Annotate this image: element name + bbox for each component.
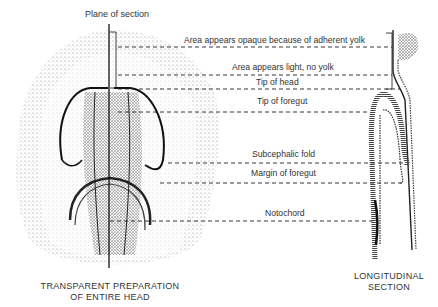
plane-of-section-label: Plane of section <box>85 9 149 19</box>
head-preparation-drawing <box>16 30 219 265</box>
caption-left-line1: TRANSPARENT PREPARATION <box>30 281 190 292</box>
caption-right: LONGITUDINAL SECTION <box>340 271 438 293</box>
longitudinal-section-drawing <box>371 30 418 260</box>
label-margin-of-foregut: Margin of foregut <box>251 168 316 178</box>
label-notochord: Notochord <box>265 208 305 218</box>
caption-right-line1: LONGITUDINAL <box>340 271 438 282</box>
label-tip-of-foregut: Tip of foregut <box>257 96 307 106</box>
label-light-area: Area appears light, no yolk <box>232 62 334 72</box>
label-tip-of-head: Tip of head <box>256 77 299 87</box>
caption-right-line2: SECTION <box>340 282 438 293</box>
label-opaque-area: Area appears opaque because of adherent … <box>184 35 365 45</box>
diagram-artwork <box>0 0 438 307</box>
caption-left: TRANSPARENT PREPARATION OF ENTIRE HEAD <box>30 281 190 303</box>
label-subcephalic-fold: Subcephalic fold <box>252 149 315 159</box>
caption-left-line2: OF ENTIRE HEAD <box>30 292 190 303</box>
